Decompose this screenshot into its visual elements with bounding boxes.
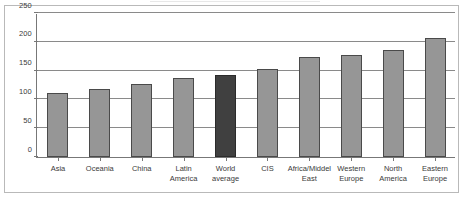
x-axis-label-oceania: Oceania	[76, 164, 124, 174]
bar-north-america[interactable]	[383, 50, 404, 157]
bar-oceania[interactable]	[89, 89, 110, 157]
x-axis-label-cis: CIS	[243, 164, 291, 174]
bars-group: AsiaOceaniaChinaLatin AmericaWorld avera…	[37, 14, 455, 157]
plot-wrapper: 050100150200250 AsiaOceaniaChinaLatin Am…	[0, 0, 463, 199]
x-tick-mark	[184, 157, 185, 161]
y-axis-label-50: 50	[23, 115, 32, 124]
x-axis-label-latin-america: Latin America	[160, 164, 208, 183]
bar-slot: CIS	[247, 14, 289, 157]
x-tick-mark	[435, 157, 436, 161]
x-axis-label-world-average: World average	[202, 164, 250, 183]
bar-slot: Latin America	[163, 14, 205, 157]
bar-slot: Africa/Middel East	[288, 14, 330, 157]
y-axis-label-100: 100	[19, 86, 32, 95]
bar-cis[interactable]	[257, 69, 278, 157]
y-axis-label-200: 200	[19, 29, 32, 38]
bar-slot: China	[121, 14, 163, 157]
bar-latin-america[interactable]	[173, 78, 194, 157]
bar-slot: Western Europe	[330, 14, 372, 157]
x-tick-mark	[393, 157, 394, 161]
bar-slot: Oceania	[79, 14, 121, 157]
x-axis-label-africa-middel-east: Africa/Middel East	[285, 164, 333, 183]
bar-africa-middel-east[interactable]	[299, 57, 320, 157]
bar-world-average[interactable]	[215, 75, 236, 157]
bar-slot: Asia	[37, 14, 79, 157]
x-tick-mark	[226, 157, 227, 161]
y-axis-label-150: 150	[19, 58, 32, 67]
x-tick-mark	[58, 157, 59, 161]
bar-slot: World average	[205, 14, 247, 157]
x-tick-mark	[100, 157, 101, 161]
x-tick-mark	[351, 157, 352, 161]
x-axis-label-north-america: North America	[369, 164, 417, 183]
bar-slot: Eastern Europe	[414, 14, 456, 157]
y-tick-mark	[34, 12, 38, 13]
bar-china[interactable]	[131, 84, 152, 157]
x-tick-mark	[142, 157, 143, 161]
bar-western-europe[interactable]	[341, 55, 362, 157]
bar-asia[interactable]	[47, 93, 68, 158]
x-tick-mark	[309, 157, 310, 161]
x-axis-label-eastern-europe: Eastern Europe	[411, 164, 459, 183]
y-axis-label-0: 0	[28, 144, 32, 153]
x-tick-mark	[267, 157, 268, 161]
bar-eastern-europe[interactable]	[425, 38, 446, 157]
x-axis-label-western-europe: Western Europe	[327, 164, 375, 183]
x-axis-label-china: China	[118, 164, 166, 174]
x-axis-label-asia: Asia	[34, 164, 82, 174]
gridline-250	[37, 12, 455, 13]
chart-figure: 050100150200250 AsiaOceaniaChinaLatin Am…	[0, 0, 463, 199]
bar-slot: North America	[372, 14, 414, 157]
y-axis-label-250: 250	[19, 0, 32, 9]
plot-area: 050100150200250 AsiaOceaniaChinaLatin Am…	[36, 14, 455, 158]
